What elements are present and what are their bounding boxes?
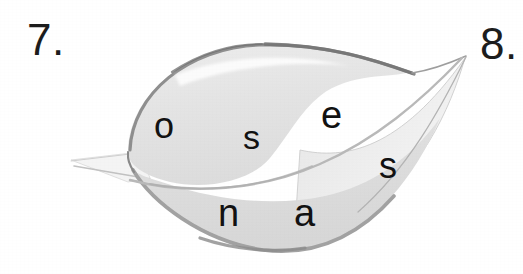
scramble-letter-3: e [321,96,342,134]
scramble-letter-6: a [294,194,315,232]
scramble-letter-4: s [379,148,397,184]
scramble-letter-2: s [243,120,260,154]
leaf-figure: o s e s n a [0,0,523,274]
worksheet-page: 7. 8. [0,0,523,274]
leaf-illustration-svg [0,0,523,274]
scramble-letter-5: n [218,194,239,232]
scramble-letter-1: o [154,108,174,144]
